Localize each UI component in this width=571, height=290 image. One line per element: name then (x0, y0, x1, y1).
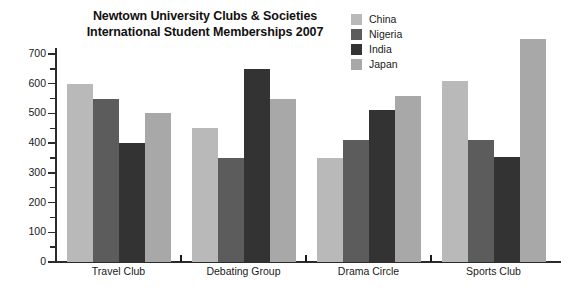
x-axis-category-label: Debating Group (181, 265, 306, 277)
y-axis-major-tick (48, 113, 55, 115)
y-axis-minor-tick (50, 98, 55, 100)
bar (244, 69, 270, 262)
bar-group (442, 54, 546, 262)
y-axis-minor-tick (50, 217, 55, 219)
chart-title-line-1: Newtown University Clubs & Societies (60, 8, 350, 24)
y-axis-tick-label: 200 (14, 197, 46, 207)
bar (343, 140, 369, 262)
y-axis-major-tick (48, 53, 55, 55)
bar-chart: Newtown University Clubs & Societies Int… (0, 0, 571, 290)
legend-label: Nigeria (369, 29, 402, 40)
y-axis-major-tick (48, 261, 55, 263)
y-axis-major-tick (48, 142, 55, 144)
y-axis-minor-tick (50, 68, 55, 70)
y-axis-tick-label: 400 (14, 137, 46, 147)
bar (468, 140, 494, 262)
plot-area (56, 54, 556, 262)
y-axis-tick-label: 500 (14, 107, 46, 117)
y-axis-major-tick (48, 83, 55, 85)
bar (317, 158, 343, 262)
bar (369, 110, 395, 262)
legend-swatch-icon (351, 29, 362, 40)
bar (145, 113, 171, 262)
y-axis-minor-tick (50, 128, 55, 130)
y-axis-minor-tick (50, 246, 55, 248)
bar (270, 99, 296, 262)
y-axis-minor-tick (50, 157, 55, 159)
bar-group (192, 54, 296, 262)
bar (395, 96, 421, 262)
legend-swatch-icon (351, 14, 362, 25)
legend-label: India (369, 44, 392, 55)
y-axis-tick-label: 0 (14, 256, 46, 266)
legend-item: Nigeria (351, 27, 471, 41)
page-edge (0, 282, 571, 290)
bar-group (67, 54, 171, 262)
y-axis-tick-label: 600 (14, 78, 46, 88)
y-axis-tick-label: 100 (14, 226, 46, 236)
y-axis-tick-label: 700 (14, 48, 46, 58)
y-axis-major-tick (48, 232, 55, 234)
bar (67, 84, 93, 262)
x-axis-category-label: Drama Circle (306, 265, 431, 277)
x-axis-category-label: Sports Club (431, 265, 556, 277)
bar (192, 128, 218, 262)
bar (93, 99, 119, 262)
y-axis-major-tick (48, 172, 55, 174)
bar (119, 143, 145, 262)
y-axis-minor-tick (50, 187, 55, 189)
legend-item: China (351, 12, 471, 26)
x-axis-category-label: Travel Club (56, 265, 181, 277)
legend-label: China (369, 14, 396, 25)
bar (520, 39, 546, 262)
chart-title-line-2: International Student Memberships 2007 (60, 24, 350, 40)
legend-swatch-icon (351, 44, 362, 55)
bar (218, 158, 244, 262)
bar (494, 157, 520, 262)
y-axis-major-tick (48, 202, 55, 204)
bar (442, 81, 468, 262)
y-axis-tick-label: 300 (14, 167, 46, 177)
bar-group (317, 54, 421, 262)
chart-title: Newtown University Clubs & Societies Int… (60, 8, 350, 40)
